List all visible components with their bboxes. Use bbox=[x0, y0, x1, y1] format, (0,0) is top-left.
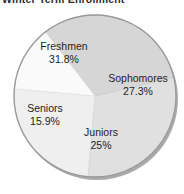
pie-label-freshmen-name: Freshmen bbox=[26, 40, 102, 53]
pie-label-seniors-name: Seniors bbox=[12, 102, 78, 115]
pie-label-seniors: Seniors 15.9% bbox=[12, 102, 78, 127]
pie-label-juniors-value: 25% bbox=[68, 139, 134, 152]
pie-label-juniors: Juniors 25% bbox=[68, 126, 134, 151]
pie-label-juniors-name: Juniors bbox=[68, 126, 134, 139]
pie-graphic bbox=[0, 0, 184, 194]
pie-chart-figure: Winter Term Enrollment Freshmen 31.8% So… bbox=[0, 0, 184, 194]
pie-label-sophomores-value: 27.3% bbox=[92, 85, 184, 98]
pie-label-freshmen-value: 31.8% bbox=[26, 53, 102, 66]
pie-label-freshmen: Freshmen 31.8% bbox=[26, 40, 102, 65]
pie-label-seniors-value: 15.9% bbox=[12, 115, 78, 128]
pie-label-sophomores-name: Sophomores bbox=[92, 72, 184, 85]
pie-svg bbox=[0, 0, 184, 194]
pie-label-sophomores: Sophomores 27.3% bbox=[92, 72, 184, 97]
